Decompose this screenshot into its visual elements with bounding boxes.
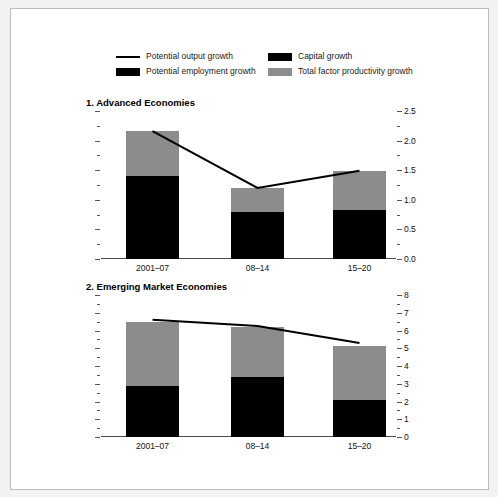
y-axis-minor-tick [97,215,100,216]
y-axis-minor-tick [397,304,400,305]
y-axis-minor-tick [97,185,100,186]
y-axis-tick [397,402,402,403]
y-axis-tick-label: 2.5 [404,106,416,116]
y-axis-tick [397,384,402,385]
y-axis-tick-label: 4 [404,361,409,371]
legend-row-1: Potential output growth Capital growth [116,49,421,64]
y-axis-tick [95,200,100,201]
x-axis-category-label: 2001–07 [118,263,188,273]
y-axis-tick-label: 5 [404,343,409,353]
y-axis-tick-label: 1.5 [404,165,416,175]
y-axis-tick-label: 1.0 [404,195,416,205]
y-axis-minor-tick [397,244,400,245]
y-axis-minor-tick [97,410,100,411]
line-series-potential-output-growth [101,295,396,437]
y-axis-tick [95,402,100,403]
legend-label: Potential output growth [146,52,233,61]
y-axis-tick [397,366,402,367]
y-axis-minor-tick [397,322,400,323]
y-axis-tick-label: 8 [404,290,409,300]
y-axis-tick-label: 2 [404,397,409,407]
panel-title: 1. Advanced Economies [86,97,195,108]
y-axis-tick [95,419,100,420]
y-axis-minor-tick [97,357,100,358]
legend-row-2: Potential employment growth Total factor… [116,64,421,79]
y-axis-minor-tick [97,428,100,429]
figure-frame: Potential output growth Capital growth P… [10,8,489,490]
y-axis-tick [95,384,100,385]
y-axis-minor-tick [397,215,400,216]
y-axis-tick-label: 0.5 [404,224,416,234]
y-axis-tick [397,348,402,349]
legend-item-potential-output-growth: Potential output growth [116,52,268,61]
y-axis-tick-label: 0.0 [404,254,416,264]
legend-swatch-black-icon [116,68,140,76]
y-axis-minor-tick [97,126,100,127]
y-axis-minor-tick [397,357,400,358]
y-axis-tick [95,295,100,296]
y-axis-tick [95,437,100,438]
plot-area: 0.00.51.01.52.02.52001–0708–1415–20 [101,111,396,259]
y-axis-minor-tick [397,410,400,411]
y-axis-minor-tick [97,304,100,305]
line-path [153,320,360,343]
chart-panel-emerging-market-economies: 2. Emerging Market Economies 01234567820… [11,281,488,461]
y-axis-tick [397,141,402,142]
y-axis-minor-tick [97,322,100,323]
y-axis-tick-label: 6 [404,326,409,336]
y-axis-tick-label: 0 [404,432,409,442]
y-axis-tick [397,200,402,201]
x-axis-category-label: 15–20 [325,263,395,273]
legend-item-capital-growth: Capital growth [268,52,352,61]
y-axis-tick [95,313,100,314]
y-axis-minor-tick [97,244,100,245]
y-axis-tick [397,170,402,171]
y-axis-tick [397,295,402,296]
y-axis-tick [95,141,100,142]
x-axis-category-label: 15–20 [325,441,395,451]
legend-item-total-factor-productivity-growth: Total factor productivity growth [268,67,413,76]
plot-area: 0123456782001–0708–1415–20 [101,295,396,437]
y-axis-tick [397,419,402,420]
x-axis-category-label: 2001–07 [118,441,188,451]
y-axis-minor-tick [97,155,100,156]
y-axis-tick [397,259,402,260]
y-axis-minor-tick [97,339,100,340]
y-axis-tick [397,229,402,230]
chart-legend: Potential output growth Capital growth P… [116,49,421,79]
y-axis-tick-label: 1 [404,414,409,424]
y-axis-minor-tick [397,375,400,376]
y-axis-tick [95,366,100,367]
legend-swatch-black-icon [268,53,292,61]
y-axis-tick [397,313,402,314]
y-axis-minor-tick [97,393,100,394]
y-axis-tick [397,111,402,112]
y-axis-tick [95,348,100,349]
legend-label: Potential employment growth [146,67,256,76]
y-axis-tick [95,259,100,260]
y-axis-tick [397,331,402,332]
x-axis-category-label: 08–14 [223,441,293,451]
y-axis-minor-tick [397,185,400,186]
y-axis-tick-label: 3 [404,379,409,389]
line-series-potential-output-growth [101,111,396,259]
x-axis-category-label: 08–14 [223,263,293,273]
y-axis-minor-tick [397,155,400,156]
y-axis-tick-label: 2.0 [404,136,416,146]
chart-page: Potential output growth Capital growth P… [0,0,498,497]
legend-item-potential-employment-growth: Potential employment growth [116,67,268,76]
legend-line-marker-icon [116,56,140,58]
y-axis-minor-tick [97,375,100,376]
y-axis-tick [95,170,100,171]
y-axis-tick-label: 7 [404,308,409,318]
legend-swatch-gray-icon [268,68,292,76]
panel-title: 2. Emerging Market Economies [86,281,227,292]
legend-label: Total factor productivity growth [298,67,413,76]
y-axis-minor-tick [397,339,400,340]
y-axis-tick [95,229,100,230]
legend-label: Capital growth [298,52,352,61]
y-axis-minor-tick [397,428,400,429]
line-path [153,131,360,188]
y-axis-minor-tick [397,393,400,394]
y-axis-tick [95,331,100,332]
